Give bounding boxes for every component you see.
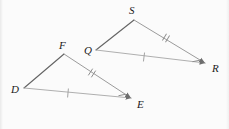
side-QS [96,20,134,50]
vertex-label-D: D [10,83,19,95]
triangles-figure: D F E Q S R [0,0,229,129]
triangle-QSR: Q S R [84,4,219,74]
vertex-label-Q: Q [84,44,92,56]
vertex-label-E: E [136,98,144,110]
vertex-label-F: F [58,39,66,51]
side-DF [24,54,64,88]
side-DE [24,88,131,98]
vertex-label-S: S [129,4,135,16]
tick-DE-single [68,89,69,98]
side-SR [134,20,205,63]
side-FE [64,54,131,98]
tick-FE-double [88,69,95,78]
tick-QR-single [143,53,144,62]
triangle-DFE: D F E [10,39,144,110]
geometry-diagram-canvas: D F E Q S R [0,0,229,129]
tick-E-corner-single [118,94,125,95]
side-QR [96,50,205,63]
vertex-label-R: R [211,62,219,74]
